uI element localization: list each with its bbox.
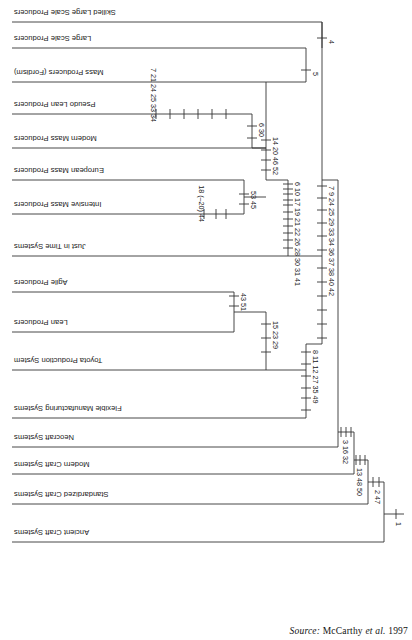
chnum-lean-agile-stem: 15 23 29: [271, 321, 280, 349]
source-caption: Source: McCarthy et al. 1997: [290, 626, 408, 636]
chnum-pseudo-stem: 7 21 24 25 33 34: [149, 68, 158, 122]
chnum-root: 1: [394, 522, 403, 526]
chnum-13-48-50: 13 48 50: [355, 468, 364, 496]
chnum-2-47: 2 47: [373, 490, 382, 504]
taxon-label-ancient-craft: Ancient Craft Systems: [14, 528, 89, 537]
taxon-label-flexible-manu: Flexible Manufacturing Systems: [14, 404, 122, 413]
chnum-18-m20-44: 18 (–20) 44: [197, 185, 206, 222]
taxon-label-intensive-mass: Intensive Mass Producers: [14, 200, 102, 209]
chnum-mass-backbone: 6 10 17 19 21 22 26 28 30 31 41: [293, 182, 302, 286]
taxon-label-standardized-craft: Standardized Craft Systems: [14, 490, 109, 499]
taxon-label-toyota: Toyota Production System: [14, 356, 102, 365]
taxon-label-modern-craft: Modern Craft Systems: [14, 460, 90, 469]
taxon-label-agile: Agile Producers: [14, 278, 68, 287]
taxon-label-large-scale: Large Scale Producers: [14, 34, 91, 43]
taxon-labels: Ancient Craft Systems Standardized Craft…: [14, 8, 122, 537]
cladogram-rotated-container: Ancient Craft Systems Standardized Craft…: [0, 0, 412, 600]
chnum-agile-stem: 43 51: [239, 293, 248, 311]
chnum-14-20-46-52: 14 20 46 52: [271, 137, 280, 175]
taxon-label-mass-fordism: Mass Producers (Fordism): [14, 68, 104, 77]
figure-canvas: Ancient Craft Systems Standardized Craft…: [0, 0, 412, 640]
taxon-label-jit: Just in Time Systems: [14, 242, 86, 251]
taxon-label-lean: Lean Producers: [14, 318, 68, 327]
chnum-6-30: 6 30: [257, 123, 266, 137]
source-author: McCarthy: [323, 626, 363, 636]
chnum-stem-left: 7 9 24 25 29 33 34 36 37 38 40 42: [327, 186, 336, 296]
taxon-label-pseudo-lean: Pseudo Lean Producers: [14, 100, 96, 109]
chnum-3-16-32: 3 16 32: [341, 440, 350, 464]
cladogram-svg: Ancient Craft Systems Standardized Craft…: [0, 0, 412, 600]
taxon-label-neocraft: Neocraft Systems: [14, 433, 74, 442]
taxon-label-modern-mass: Modern Mass Producers: [14, 134, 97, 143]
chnum-node-5: 5: [311, 72, 320, 76]
source-year: 1997: [388, 626, 408, 636]
chnum-53-45: 53 45: [249, 191, 258, 209]
source-label: Source:: [290, 626, 321, 636]
chnum-node-4: 4: [327, 40, 336, 44]
internal-branches: [216, 22, 404, 542]
source-etal: et al.: [365, 626, 385, 636]
taxon-label-skilled-large-scale: Skilled Large Scale Producers: [14, 8, 116, 17]
chnum-toyota-stem: 8 11 12 27 35 49: [311, 350, 320, 403]
taxon-label-european-mass: European Mass Producers: [14, 166, 104, 175]
character-number-labels: 1 2 47 13 48 50 3 16 32 7 9 24 25 29 33 …: [149, 40, 403, 526]
